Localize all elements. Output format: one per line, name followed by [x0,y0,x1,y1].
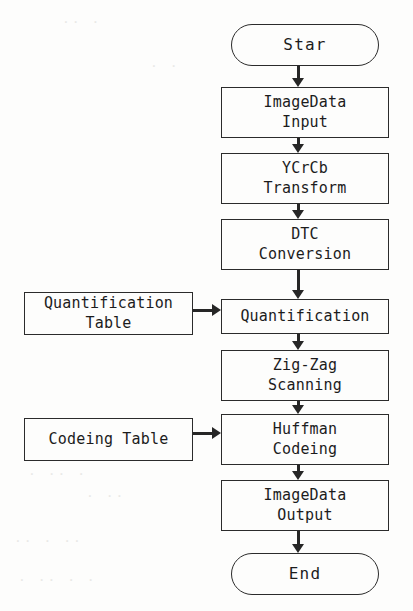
arrow-head [292,471,304,480]
connector-arrow-huffman-to-image_out [291,465,305,480]
connector-arrow-zigzag-to-huffman [291,401,305,414]
flowchart-node-quantification: Quantification [221,299,389,334]
node-label-line: Huffman [273,420,338,440]
scan-artifact: · ·· · · [18,572,97,587]
node-label-line: Codeing Table [49,430,169,450]
connector-arrow-codeing_table-to-huffman [193,426,221,440]
node-label-line: YCrCb [282,159,328,179]
node-label-line: Table [85,314,131,334]
node-label-line: Quantification [44,294,173,314]
arrow-head [292,78,304,87]
connector-arrow-image_in-to-ycrcb [291,138,305,153]
node-label-line: ImageData [263,93,346,113]
arrow-shaft [193,432,214,435]
node-label-line: Transform [263,179,346,199]
flowchart-node-zigzag: Zig-ZagScanning [221,350,389,401]
scan-artifact: · ·· · [28,466,87,481]
arrow-shaft [297,270,300,292]
arrow-head [292,144,304,153]
node-label-line: DTC [291,225,319,245]
node-label-line: Scanning [268,376,342,396]
connector-arrow-ycrcb-to-dtc [291,204,305,219]
flowchart-node-end: End [231,553,379,595]
arrow-shaft [193,309,214,312]
arrow-head [292,544,304,553]
arrow-shaft [297,66,300,80]
node-label-line: Conversion [259,245,351,265]
connector-arrow-start-to-image_in [291,66,305,87]
node-label-line: Star [283,35,326,56]
node-label-line: Input [282,113,328,133]
flowchart-node-image_in: ImageDataInput [221,87,389,138]
flowchart-node-dtc: DTCConversion [221,219,389,270]
node-label-line: Zig-Zag [273,356,338,376]
arrow-shaft [297,531,300,546]
node-label-line: Output [277,506,332,526]
flowchart-node-image_out: ImageDataOutput [221,480,389,531]
node-label-line: ImageData [263,486,346,506]
node-label-line: End [289,564,322,585]
arrow-head [292,210,304,219]
arrow-head [292,290,304,299]
flowchart-node-ycrcb: YCrCbTransform [221,153,389,204]
arrow-shaft [297,401,300,407]
node-label-line: Quantification [240,307,369,327]
scan-artifact: ·· · [62,14,101,29]
flowchart-node-huffman: HuffmanCodeing [221,414,389,465]
arrow-head [212,304,221,316]
arrow-shaft [297,204,300,212]
scan-artifact: ·· · ·· [14,533,83,548]
scan-artifact: · ·· [86,488,125,503]
flowchart-canvas: · ·· ··· · ··· ·· · ·· ···· ·· ·StarImag… [0,0,413,611]
arrow-head [292,405,304,414]
connector-arrow-dtc-to-quantification [291,270,305,299]
connector-arrow-image_out-to-end [291,531,305,553]
flowchart-node-quant_table: QuantificationTable [24,292,193,335]
arrow-shaft [297,334,300,343]
connector-arrow-quant_table-to-quantification [193,303,221,317]
flowchart-node-codeing_table: Codeing Table [24,418,193,461]
flowchart-node-start: Star [231,24,379,66]
arrow-head [292,341,304,350]
scan-artifact: · · [150,58,179,73]
arrow-shaft [297,465,300,473]
node-label-line: Codeing [273,440,338,460]
connector-arrow-quantification-to-zigzag [291,334,305,350]
arrow-shaft [297,138,300,146]
arrow-head [212,427,221,439]
